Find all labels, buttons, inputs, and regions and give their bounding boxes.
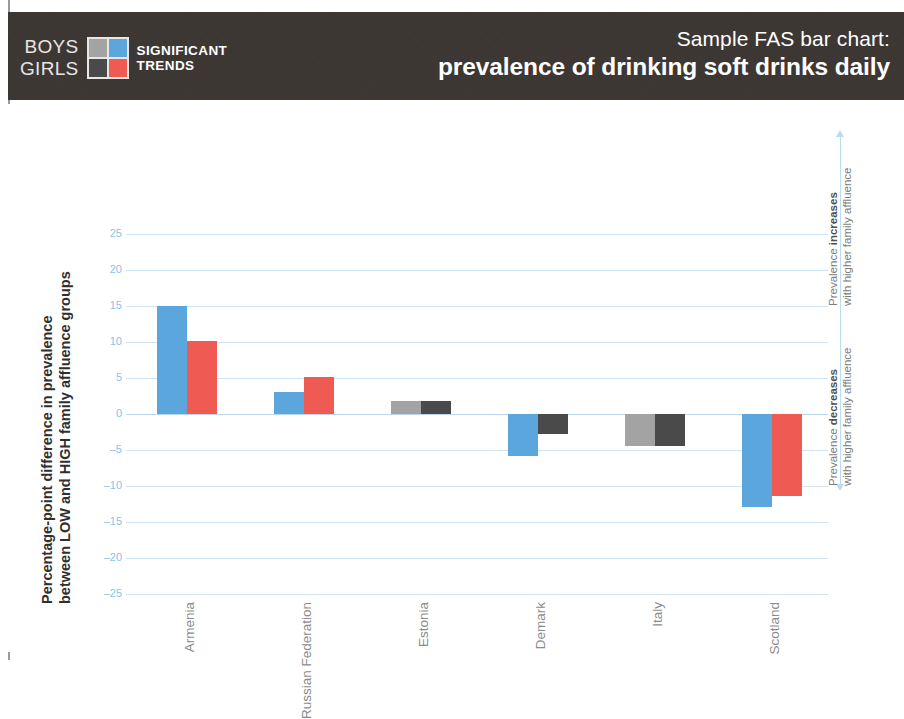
legend-label-boys: BOYS (20, 36, 79, 58)
y-axis-tick-label: –15 (76, 515, 122, 527)
legend-caption-line1: SIGNIFICANT (137, 43, 228, 58)
chart-header-band: BOYS GIRLS SIGNIFICANT TRENDS Sample FAS… (8, 12, 904, 100)
y-axis-tick-label: 15 (76, 299, 122, 311)
y-axis-tick-label: –10 (76, 479, 122, 491)
bar-girls-italy (655, 414, 685, 446)
bar-girls-armenia (187, 341, 217, 414)
bar-boys-russian-federation (274, 392, 304, 414)
y-axis-title: Percentage-point difference in prevalenc… (36, 224, 80, 604)
y-axis-tick-label: 10 (76, 335, 122, 347)
legend-swatch-boys-nonsignificant (89, 39, 107, 57)
gridline (126, 594, 828, 595)
gridline (126, 234, 828, 235)
bar-girls-russian-federation (304, 377, 334, 414)
chart-title: Sample FAS bar chart: prevalence of drin… (438, 26, 890, 81)
y-axis-tick-label: 0 (76, 407, 122, 419)
legend-swatch-grid (87, 37, 129, 79)
x-axis-label: Estonia (416, 602, 431, 647)
legend-row-labels: BOYS GIRLS (20, 36, 79, 80)
legend-caption: SIGNIFICANT TRENDS (137, 43, 228, 73)
chart-body: Percentage-point difference in prevalenc… (8, 104, 904, 652)
annotation-increases-text: Prevalence increases with higher family … (826, 168, 854, 307)
x-axis-label: Russian Federation (299, 602, 314, 719)
annotation-decreases-subtext: with higher family affluence (840, 348, 854, 487)
x-axis-label: Demark (533, 602, 548, 649)
annotation-decreases-emphasis: decreases (827, 369, 839, 425)
bar-boys-scotland (742, 414, 772, 507)
legend-swatch-boys-significant (109, 39, 127, 57)
bar-boys-demark (508, 414, 538, 456)
x-axis-label: Scotland (767, 602, 782, 655)
legend-swatch-girls-significant (109, 59, 127, 77)
bar-girls-estonia (421, 401, 451, 414)
chart-title-line1: Sample FAS bar chart: (438, 26, 890, 52)
x-axis-label: Italy (650, 602, 665, 627)
gridline (126, 522, 828, 523)
bar-boys-armenia (157, 306, 187, 414)
bar-girls-scotland (772, 414, 802, 496)
gridline (126, 270, 828, 271)
plot-area: 2520151050–5–10–15–20–25ArmeniaRussian F… (126, 234, 828, 594)
y-axis-tick-label: –25 (76, 587, 122, 599)
y-axis-tick-label: 5 (76, 371, 122, 383)
annotation-increases-prefix: Prevalence (827, 245, 839, 306)
legend: BOYS GIRLS SIGNIFICANT TRENDS (20, 36, 227, 80)
legend-label-girls: GIRLS (20, 58, 79, 80)
annotation-increases-emphasis: increases (827, 192, 839, 245)
y-axis-tick-label: 25 (76, 227, 122, 239)
annotation-decreases-prefix: Prevalence (827, 425, 839, 486)
legend-caption-line2: TRENDS (137, 58, 228, 73)
gridline (126, 342, 828, 343)
gridline (126, 306, 828, 307)
chart-title-line2: prevalence of drinking soft drinks daily (438, 52, 890, 81)
annotation-increases-subtext: with higher family affluence (840, 168, 854, 307)
bar-boys-estonia (391, 401, 421, 414)
gridline (126, 558, 828, 559)
annotation-decreases-text: Prevalence decreases with higher family … (826, 348, 854, 487)
x-axis-label: Armenia (182, 602, 197, 652)
legend-swatch-girls-nonsignificant (89, 59, 107, 77)
gridline (126, 378, 828, 379)
y-axis-tick-label: –5 (76, 443, 122, 455)
gridline (126, 486, 828, 487)
bar-girls-demark (538, 414, 568, 434)
y-axis-tick-label: –20 (76, 551, 122, 563)
y-axis-title-line2: between LOW and HIGH family affluence gr… (56, 271, 74, 604)
gridline (126, 450, 828, 451)
zero-line (126, 414, 828, 415)
bar-boys-italy (625, 414, 655, 446)
y-axis-tick-label: 20 (76, 263, 122, 275)
y-axis-title-line1: Percentage-point difference in prevalenc… (38, 316, 56, 604)
